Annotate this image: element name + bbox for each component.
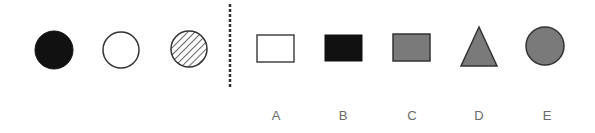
option-a-white-rectangle[interactable] xyxy=(257,35,294,62)
sequence-black-circle xyxy=(35,31,73,69)
sequence-white-circle xyxy=(103,32,139,68)
option-label-c: C xyxy=(397,108,427,123)
puzzle-canvas xyxy=(0,0,595,133)
option-label-b: B xyxy=(328,108,358,123)
sequence-hatched-circle xyxy=(171,31,207,67)
option-label-e: E xyxy=(532,108,562,123)
option-label-d: D xyxy=(464,108,494,123)
option-c-gray-rectangle[interactable] xyxy=(393,34,430,61)
option-b-black-rectangle[interactable] xyxy=(325,35,362,61)
option-label-a: A xyxy=(261,108,291,123)
option-e-gray-circle[interactable] xyxy=(526,27,564,65)
option-d-gray-triangle[interactable] xyxy=(461,27,497,66)
